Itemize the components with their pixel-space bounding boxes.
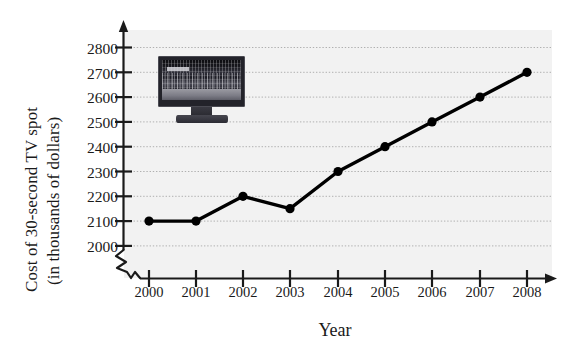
x-axis-title: Year bbox=[255, 320, 415, 341]
x-axis-tick-labels: 2000 2001 2002 2003 2004 2005 2006 2007 … bbox=[0, 0, 562, 358]
chart-figure: Cost of 30-second TV spot (in thousands … bbox=[0, 0, 562, 358]
x-tick-label: 2008 bbox=[499, 285, 555, 300]
